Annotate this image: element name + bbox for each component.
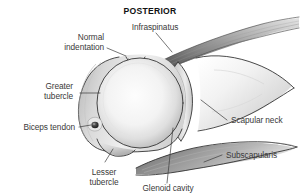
label-lesser-tubercle-line2: tubercle — [90, 177, 119, 187]
label-normal-indentation-line2: indentation — [64, 42, 104, 52]
anatomy-figure: POSTERIOR Infraspinatus Normal indentati… — [0, 0, 300, 196]
figure-title: POSTERIOR — [124, 6, 177, 16]
label-infraspinatus: Infraspinatus — [132, 22, 178, 32]
label-biceps-tendon: Biceps tendon — [23, 122, 75, 132]
label-greater-tubercle-line2: tubercle — [44, 91, 73, 101]
label-subscapularis: Subscapularis — [226, 150, 277, 160]
label-scapular-neck: Scapular neck — [231, 115, 283, 125]
label-lesser-tubercle-line1: Lesser — [92, 167, 117, 177]
label-greater-tubercle-line1: Greater — [45, 81, 73, 91]
shoulder-joint-illustration: POSTERIOR Infraspinatus Normal indentati… — [0, 0, 300, 196]
label-normal-indentation-line1: Normal — [78, 32, 104, 42]
biceps-tendon-dot — [91, 122, 98, 128]
humeral-head-group — [78, 54, 185, 156]
label-glenoid-cavity: Glenoid cavity — [143, 183, 195, 193]
